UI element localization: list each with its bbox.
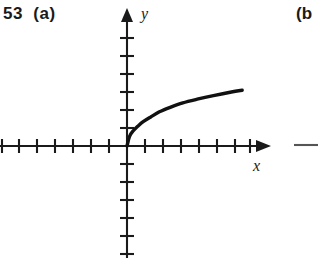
y-axis-arrow-icon [121,8,133,22]
y-axis-label: y [139,5,149,23]
function-curve [127,90,242,146]
figure-panel: 53 (a) (b [0,0,318,260]
coordinate-plot: y x [0,0,318,260]
x-axis-arrow-icon [256,140,271,152]
x-axis-label: x [252,157,260,174]
